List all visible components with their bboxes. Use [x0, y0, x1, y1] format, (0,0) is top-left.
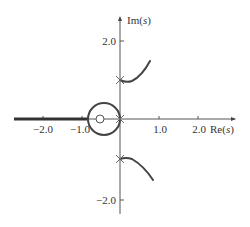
imaginary-axis-arrow-icon — [118, 16, 122, 21]
x-tick-label: −2.0 — [33, 123, 53, 135]
zero-marker-icon — [96, 115, 104, 123]
y-tick-label: −2.0 — [96, 194, 116, 206]
upper-branch — [120, 61, 150, 82]
y-tick-label: 2.0 — [102, 35, 116, 47]
x-tick-label: −1.0 — [70, 123, 90, 135]
root-locus-plot: −2.0 −1.0 1.0 2.0 2.0 −2.0 Re(s) Im(s) — [0, 0, 250, 227]
y-axis-label: Im(s) — [127, 14, 151, 27]
real-axis-arrow-icon — [231, 117, 236, 121]
x-tick-label: 2.0 — [192, 123, 206, 135]
x-tick-label: 1.0 — [153, 123, 167, 135]
x-axis-label: Re(s) — [210, 123, 234, 136]
lower-branch — [120, 158, 153, 180]
